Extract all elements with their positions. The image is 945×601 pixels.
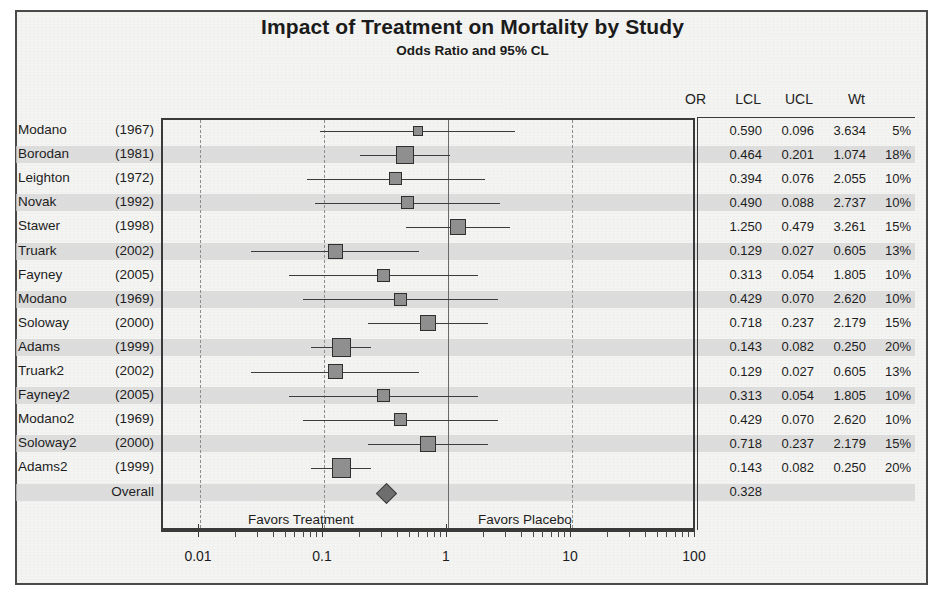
study-name: Adams2 [18, 459, 68, 475]
x-minor-tick [440, 531, 441, 537]
x-axis [161, 530, 695, 544]
cell-wt: 10% [885, 171, 911, 186]
cell-ucl: 2.179 [833, 436, 866, 451]
x-tick-100 [694, 524, 695, 537]
x-axis-rule [161, 530, 695, 532]
cell-ucl: 3.634 [833, 123, 866, 138]
odds-ratio-box-marker [401, 196, 414, 209]
cell-wt: 15% [885, 219, 911, 234]
x-minor-tick [310, 531, 311, 537]
cell-wt: 10% [885, 195, 911, 210]
x-minor-tick [505, 531, 506, 537]
cell-lcl: 0.201 [781, 147, 814, 162]
cell-or: 0.718 [729, 315, 762, 330]
x-minor-tick [397, 531, 398, 537]
study-name: Truark2 [18, 363, 64, 379]
cell-or: 0.313 [729, 267, 762, 282]
x-minor-tick [558, 531, 559, 537]
study-year: (1967) [115, 122, 154, 138]
x-minor-tick [533, 531, 534, 537]
cell-wt: 10% [885, 267, 911, 282]
cell-ucl: 1.805 [833, 267, 866, 282]
cell-ucl: 2.620 [833, 291, 866, 306]
cell-ucl: 1.805 [833, 388, 866, 403]
cell-or: 0.718 [729, 436, 762, 451]
cell-or: 0.590 [729, 123, 762, 138]
x-minor-tick [303, 531, 304, 537]
study-name: Fayney2 [18, 387, 70, 403]
x-minor-tick [542, 531, 543, 537]
cell-wt: 13% [885, 364, 911, 379]
study-name: Borodan [18, 146, 69, 162]
odds-ratio-box-marker [420, 436, 436, 452]
cell-ucl: 0.250 [833, 460, 866, 475]
cell-or: 0.394 [729, 171, 762, 186]
cell-ucl: 0.605 [833, 364, 866, 379]
study-name: Truark [18, 243, 57, 259]
x-minor-tick [359, 531, 360, 537]
cell-ucl: 0.250 [833, 339, 866, 354]
study-year: (1969) [115, 291, 154, 307]
cell-lcl: 0.076 [781, 171, 814, 186]
cell-lcl: 0.237 [781, 436, 814, 451]
x-minor-tick [316, 531, 317, 537]
cell-lcl: 0.088 [781, 195, 814, 210]
odds-ratio-box-marker [328, 364, 343, 379]
cell-or: 0.429 [729, 291, 762, 306]
x-tick-label-10: 10 [562, 548, 578, 564]
study-year: (2002) [115, 243, 154, 259]
study-name: Modano2 [18, 411, 74, 427]
odds-ratio-box-marker [377, 389, 390, 402]
study-year: (2005) [115, 267, 154, 283]
study-year: (1999) [115, 339, 154, 355]
x-tick-10 [570, 524, 571, 537]
study-name: Soloway [18, 315, 69, 331]
cell-ucl: 1.074 [833, 147, 866, 162]
cell-or: 0.328 [729, 484, 762, 499]
x-minor-tick [688, 531, 689, 537]
cell-wt: 10% [885, 388, 911, 403]
x-minor-tick [381, 531, 382, 537]
x-minor-tick [682, 531, 683, 537]
x-minor-tick [675, 531, 676, 537]
cell-or: 0.464 [729, 147, 762, 162]
study-year: (2005) [115, 387, 154, 403]
cell-wt: 5% [892, 123, 911, 138]
x-minor-tick [657, 531, 658, 537]
cell-ucl: 0.605 [833, 243, 866, 258]
x-minor-tick [273, 531, 274, 537]
cell-or: 0.490 [729, 195, 762, 210]
cell-lcl: 0.237 [781, 315, 814, 330]
cell-wt: 20% [885, 460, 911, 475]
odds-ratio-box-marker [377, 269, 390, 282]
cell-ucl: 2.737 [833, 195, 866, 210]
cell-lcl: 0.070 [781, 291, 814, 306]
cell-ucl: 3.261 [833, 219, 866, 234]
odds-ratio-box-marker [420, 315, 436, 331]
odds-ratio-box-marker [394, 413, 407, 426]
study-name: Stawer [18, 218, 60, 234]
x-tick-label-1: 1 [442, 548, 450, 564]
x-tick-label-0.1: 0.1 [312, 548, 331, 564]
odds-ratio-box-marker [389, 172, 402, 185]
cell-lcl: 0.082 [781, 460, 814, 475]
cell-wt: 13% [885, 243, 911, 258]
cell-lcl: 0.082 [781, 339, 814, 354]
study-name: Modano [18, 291, 67, 307]
study-year: (2000) [115, 315, 154, 331]
x-minor-tick [235, 531, 236, 537]
x-tick-label-100: 100 [682, 548, 705, 564]
x-minor-tick [257, 531, 258, 537]
study-name: Leighton [18, 170, 70, 186]
cell-or: 0.313 [729, 388, 762, 403]
favors-placebo-label: Favors Placebo [478, 512, 572, 527]
study-year: (1981) [115, 146, 154, 162]
study-year: (1969) [115, 411, 154, 427]
overall-diamond-marker [376, 482, 397, 503]
study-year: (2000) [115, 435, 154, 451]
cell-or: 0.129 [729, 243, 762, 258]
x-tick-1 [446, 524, 447, 537]
odds-ratio-box-marker [396, 146, 414, 164]
x-minor-tick [285, 531, 286, 537]
study-name: Fayney [18, 267, 62, 283]
